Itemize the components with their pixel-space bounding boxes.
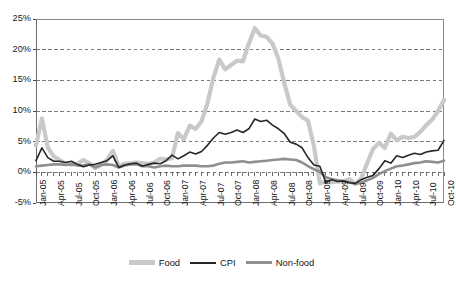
x-axis-tick-label: Jul-05 <box>75 183 84 206</box>
y-axis-tick-label: 20% <box>0 45 31 54</box>
x-axis-tick-label: Apr-09 <box>341 180 350 206</box>
y-axis-tick-label: 10% <box>0 106 31 115</box>
legend-item-food[interactable]: Food <box>129 258 190 267</box>
legend-item-cpi[interactable]: CPI <box>190 258 246 267</box>
x-axis-tick-label: Jul-07 <box>217 183 226 206</box>
x-axis-tick-label: Oct-10 <box>447 180 456 206</box>
x-axis-tick-label: Jan-05 <box>39 180 48 206</box>
chart-legend: Food CPI Non-food <box>0 258 453 267</box>
x-axis-tick-label: Jan-08 <box>252 180 261 206</box>
legend-label-nonfood: Non-food <box>276 258 315 267</box>
x-axis-tick-label: Jan-07 <box>181 180 190 206</box>
x-axis-tick-label: Jul-06 <box>146 183 155 206</box>
series-line-cpi <box>36 119 444 183</box>
legend-swatch-nonfood-icon <box>246 261 272 264</box>
x-axis-tick-label: Jan-06 <box>110 180 119 206</box>
legend-swatch-cpi-icon <box>190 262 216 264</box>
x-axis-tick-label: Oct-07 <box>234 180 243 206</box>
y-axis-tick-label: 25% <box>0 14 31 23</box>
x-axis-tick-label: Oct-06 <box>163 180 172 206</box>
x-axis-tick-label: Apr-08 <box>270 180 279 206</box>
y-axis-tick-label: 15% <box>0 75 31 84</box>
x-axis-tick-label: Apr-10 <box>412 180 421 206</box>
legend-item-nonfood[interactable]: Non-food <box>246 258 325 267</box>
x-axis-tick-label: Oct-08 <box>305 180 314 206</box>
y-axis-tick-label: -5% <box>0 198 31 207</box>
x-axis-tick-label: Jul-10 <box>429 183 438 206</box>
x-axis-tick-label: Apr-07 <box>199 180 208 206</box>
legend-label-cpi: CPI <box>220 258 236 267</box>
x-axis-tick-label: Apr-06 <box>128 180 137 206</box>
legend-swatch-food-icon <box>129 260 155 265</box>
y-axis-tick-label: 0% <box>0 167 31 176</box>
x-axis-tick-label: Apr-05 <box>57 180 66 206</box>
x-axis-tick-label: Jul-09 <box>359 183 368 206</box>
x-axis-tick-label: Jan-10 <box>394 180 403 206</box>
x-axis-tick-label: Oct-05 <box>92 180 101 206</box>
x-axis-tick-label: Jul-08 <box>288 183 297 206</box>
legend-label-food: Food <box>159 258 180 267</box>
x-axis-tick-label: Jan-09 <box>323 180 332 206</box>
y-axis-tick-label: 5% <box>0 137 31 146</box>
x-axis-tick-label: Oct-09 <box>376 180 385 206</box>
